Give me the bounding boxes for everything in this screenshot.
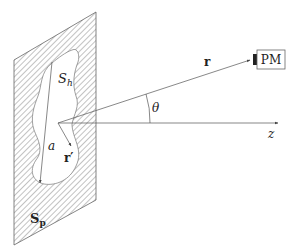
detector-window bbox=[253, 54, 257, 65]
z-axis-label: z bbox=[267, 127, 275, 141]
diffraction-diagram: PM Sh Sp a r′ r θ z bbox=[0, 0, 298, 252]
observation-vector-label: r bbox=[204, 55, 211, 69]
detector-label: PM bbox=[261, 53, 281, 67]
angle-arc bbox=[146, 94, 150, 123]
photomultiplier-detector: PM bbox=[253, 50, 285, 69]
source-position-label: r′ bbox=[64, 151, 74, 165]
aperture-size-label: a bbox=[48, 139, 55, 153]
angle-label: θ bbox=[152, 101, 160, 115]
